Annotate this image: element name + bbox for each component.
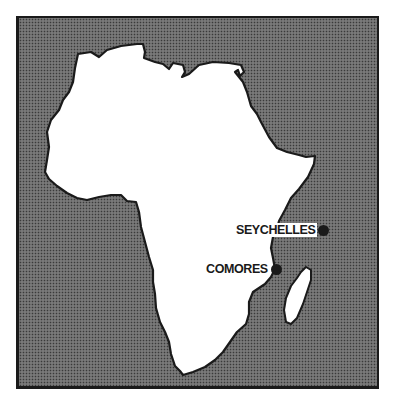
location-dot-icon <box>318 225 329 236</box>
marker-comores[interactable]: COMORES <box>204 262 282 276</box>
africa-landmass <box>19 18 379 389</box>
map-frame: SEYCHELLES COMORES <box>16 16 379 389</box>
location-dot-icon <box>271 264 282 275</box>
marker-label: SEYCHELLES <box>234 223 317 237</box>
marker-seychelles[interactable]: SEYCHELLES <box>234 223 329 237</box>
africa-continent <box>45 44 315 375</box>
marker-label: COMORES <box>204 262 270 276</box>
madagascar <box>284 267 311 324</box>
